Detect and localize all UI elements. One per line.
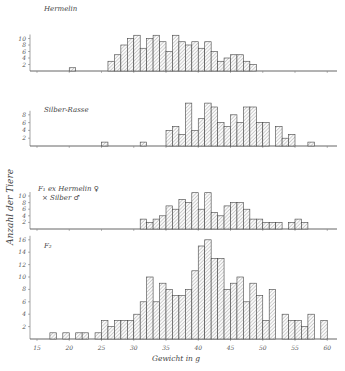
histogram-bar: [218, 216, 224, 229]
histogram-bar: [185, 103, 191, 146]
histogram-bar: [198, 246, 204, 339]
histogram-bar: [198, 119, 204, 146]
histogram-bar: [95, 333, 101, 339]
y-tick-label: 8: [22, 285, 26, 292]
histogram-bar: [256, 219, 262, 229]
histogram-bar: [211, 258, 217, 339]
histogram-bar: [147, 39, 153, 72]
histogram-bar: [121, 320, 127, 339]
histogram-bar: [166, 206, 172, 229]
histogram-bar: [172, 296, 178, 339]
x-tick-label: 60: [323, 344, 331, 351]
histogram-bar: [205, 42, 211, 71]
histogram-bar: [231, 115, 237, 146]
histogram-bar: [140, 219, 146, 229]
histogram-bar: [224, 58, 230, 71]
histogram-bar: [205, 240, 211, 339]
histogram-bar: [140, 142, 146, 146]
y-tick-label: 6: [22, 119, 26, 126]
y-tick-label: 10: [18, 35, 26, 42]
y-tick-label: 16: [18, 236, 26, 243]
histogram-bar: [153, 219, 159, 229]
histogram-bar: [276, 127, 282, 147]
y-tick-label: 4: [21, 310, 26, 317]
histogram-bar: [102, 142, 108, 146]
histogram-bar: [63, 333, 69, 339]
histogram-bar: [308, 314, 314, 339]
histogram-bar: [301, 222, 307, 229]
histogram-bar: [140, 48, 146, 71]
panel-label: Silber-Rasse: [44, 106, 89, 114]
histogram-bar: [205, 193, 211, 229]
panel-3: 246810121416F₂: [18, 236, 337, 341]
y-tick-label: 2: [21, 134, 26, 141]
y-tick-label: 2: [21, 323, 26, 330]
y-tick-label: 4: [21, 54, 26, 61]
panel-2: 246810F₁ ex Hermelin ♀× Silber ♂: [18, 185, 337, 231]
histogram-bar: [179, 134, 185, 146]
histogram-bar: [224, 127, 230, 147]
x-tick-label: 50: [259, 344, 267, 351]
histogram-bar: [301, 327, 307, 339]
y-tick-label: 12: [18, 261, 26, 268]
histogram-bar: [224, 289, 230, 339]
y-tick-label: 10: [18, 192, 26, 199]
histogram-bar: [295, 320, 301, 339]
histogram-bar: [153, 302, 159, 339]
histogram-bar: [114, 320, 120, 339]
histogram-bar: [282, 314, 288, 339]
histogram-bar: [308, 142, 314, 146]
y-tick-label: 10: [18, 273, 26, 280]
histogram-bar: [147, 277, 153, 339]
y-tick-label: 8: [22, 41, 26, 48]
histogram-bar: [256, 296, 262, 339]
x-tick-label: 20: [64, 344, 73, 351]
y-tick-label: 6: [22, 298, 26, 305]
histogram-bar: [179, 199, 185, 229]
histogram-bar: [134, 35, 140, 71]
histogram-bar: [263, 123, 269, 146]
panel-label: × Silber ♂: [42, 194, 80, 202]
histogram-bar: [250, 65, 256, 72]
histogram-bar: [243, 209, 249, 229]
histogram-bar: [250, 107, 256, 146]
y-tick-label: 2: [21, 61, 26, 68]
histogram-figure: 246810Hermelin2468Silber-Rasse246810F₁ e…: [0, 0, 345, 371]
histogram-bar: [127, 39, 133, 72]
histogram-bar: [179, 296, 185, 339]
histogram-bar: [153, 35, 159, 71]
y-tick-label: 6: [22, 205, 26, 212]
histogram-bar: [205, 103, 211, 146]
histogram-bar: [82, 333, 88, 339]
x-tick-label: 30: [130, 344, 138, 351]
histogram-bar: [282, 138, 288, 146]
histogram-bar: [192, 193, 198, 229]
histogram-bar: [134, 314, 140, 339]
histogram-bar: [121, 45, 127, 71]
histogram-bar: [250, 283, 256, 339]
histogram-bar: [108, 61, 114, 71]
panel-label: F₂: [43, 242, 52, 250]
histogram-bar: [76, 333, 82, 339]
histogram-bar: [263, 222, 269, 229]
histogram-bar: [263, 320, 269, 339]
histogram-bar: [172, 35, 178, 71]
histogram-bar: [166, 130, 172, 146]
histogram-bar: [192, 271, 198, 339]
histogram-bar: [69, 68, 75, 71]
histogram-bar: [243, 302, 249, 339]
histogram-bar: [166, 52, 172, 72]
histogram-bar: [211, 213, 217, 230]
y-tick-label: 4: [21, 126, 26, 133]
histogram-bar: [192, 42, 198, 71]
histogram-bar: [211, 52, 217, 72]
x-tick-label: 15: [33, 344, 41, 351]
histogram-bar: [160, 283, 166, 339]
histogram-bar: [127, 320, 133, 339]
histogram-bar: [224, 206, 230, 229]
x-tick-label: 55: [291, 344, 299, 351]
histogram-bar: [50, 333, 56, 339]
histogram-bar: [185, 203, 191, 229]
y-tick-label: 6: [22, 48, 26, 55]
histogram-bar: [321, 320, 327, 339]
